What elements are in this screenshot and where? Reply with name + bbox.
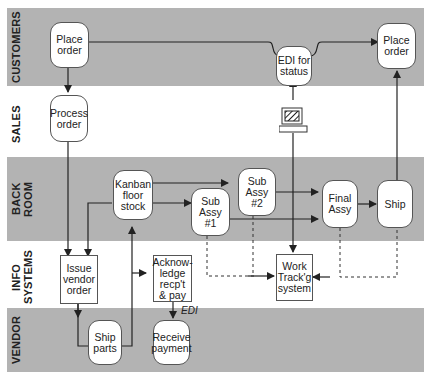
node-ship: Ship	[377, 180, 413, 228]
edi-annotation: EDI	[181, 305, 198, 316]
node-sub-assy-1: Sub Assy #1	[191, 188, 230, 236]
node-place-order-customer: Place order	[50, 22, 89, 68]
node-final-assy: Final Assy	[322, 180, 358, 228]
node-process-order: Process order	[50, 95, 88, 142]
node-ship-parts: Ship parts	[88, 320, 122, 365]
node-edi-for-status: EDI for status	[276, 46, 312, 86]
computer-terminal-icon	[279, 101, 308, 135]
node-work-tracking-system: Work Track'g system	[276, 254, 313, 301]
node-place-order-final: Place order	[377, 23, 416, 69]
node-acknowledge-pay: Acknow- ledge recp't & pay	[153, 255, 192, 302]
node-sub-assy-2: Sub Assy #2	[238, 168, 276, 216]
node-receive-payment: Receive payment	[153, 320, 190, 365]
node-issue-vendor-order: Issue vendor order	[60, 255, 98, 304]
node-kanban-floor-stock: Kanban floor stock	[113, 170, 153, 220]
